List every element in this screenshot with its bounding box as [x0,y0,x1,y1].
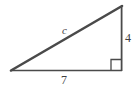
triangle-drawing [0,0,139,93]
triangle-hypotenuse-line [11,6,122,71]
vertical-leg-label: 4 [125,32,131,44]
right-angle-icon [111,60,121,71]
right-triangle-figure: c 4 7 [0,0,139,93]
base-label: 7 [61,74,67,86]
hypotenuse-label: c [62,25,67,36]
